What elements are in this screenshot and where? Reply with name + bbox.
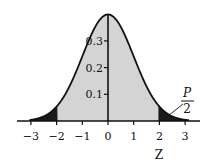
normal-distribution-chart: −3−2−10123 0.10.20.3 Z P 2: [0, 0, 208, 166]
p-over-2-annotation: P 2: [168, 86, 194, 116]
x-tick-label: 0: [105, 130, 112, 143]
x-tick-label: 3: [182, 130, 189, 143]
x-axis-label: Z: [155, 148, 163, 162]
x-tick-label: 2: [156, 130, 163, 143]
y-tick-label: 0.3: [86, 35, 104, 48]
annotation-numerator: P: [182, 86, 192, 100]
x-ticks: −3−2−10123: [23, 121, 189, 143]
x-tick-label: −1: [74, 130, 90, 143]
annotation-denominator: 2: [183, 102, 191, 116]
x-tick-label: 1: [130, 130, 137, 143]
annotation-leader-line: [168, 104, 183, 116]
y-tick-label: 0.1: [86, 88, 104, 101]
x-tick-label: −3: [23, 130, 39, 143]
y-tick-label: 0.2: [86, 62, 104, 75]
x-tick-label: −2: [48, 130, 64, 143]
